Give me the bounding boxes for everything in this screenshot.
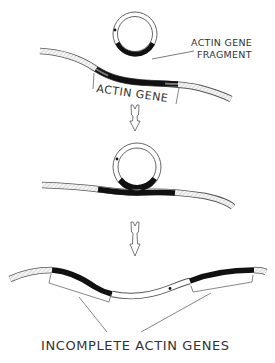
step-2 — [42, 143, 233, 207]
fragment-label: ACTIN GENE FRAGMENT — [152, 37, 252, 60]
plasmid-circle — [113, 12, 157, 57]
fragment-label-line1: ACTIN GENE — [191, 37, 252, 48]
down-arrow-1 — [130, 105, 140, 131]
step-3: INCOMPLETE ACTIN GENES — [10, 270, 266, 353]
chromosome-strand — [42, 181, 233, 207]
leader-line-right — [141, 293, 211, 332]
diagram-canvas: ACTIN GENE FRAGMENT ACTIN GENE — [0, 0, 275, 363]
leader-line-left — [79, 297, 107, 332]
diagram-svg: ACTIN GENE FRAGMENT ACTIN GENE — [0, 0, 275, 363]
chromosome-strand-with-insert — [10, 270, 266, 296]
result-label: INCOMPLETE ACTIN GENES — [41, 338, 230, 353]
marker-dot — [116, 158, 119, 161]
down-arrow-2 — [130, 222, 140, 256]
plasmid-circle-paired — [113, 143, 161, 191]
step-1: ACTIN GENE FRAGMENT ACTIN GENE — [40, 12, 252, 105]
marker-dot — [114, 29, 117, 32]
marker-dot — [169, 287, 172, 290]
fragment-label-line2: FRAGMENT — [197, 49, 252, 60]
